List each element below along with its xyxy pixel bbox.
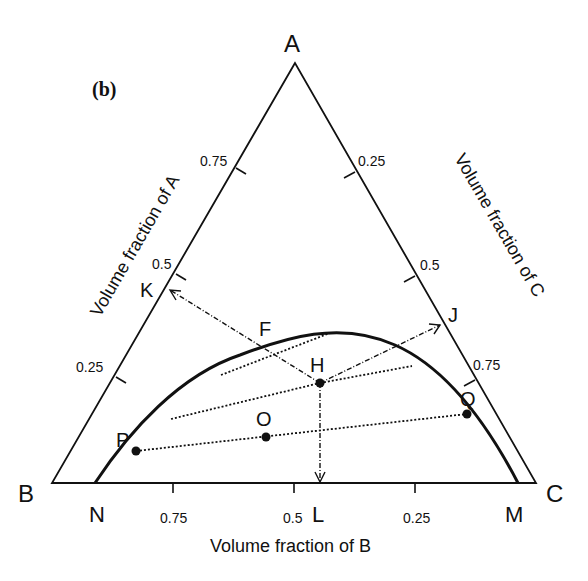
point-o-label: O xyxy=(256,408,272,430)
point-n-label: N xyxy=(89,502,105,527)
ternary-diagram: (b) A B C 0.75 0.5 0.25 Volume fraction … xyxy=(0,0,588,581)
a-tick-label-025: 0.25 xyxy=(76,359,103,375)
point-l-label: L xyxy=(312,502,324,527)
a-tick-label-050: 0.5 xyxy=(152,256,172,272)
point-f-label: F xyxy=(259,318,271,340)
c-tick-050 xyxy=(404,276,415,282)
c-tick-label-050: 0.5 xyxy=(420,257,440,273)
c-tick-025 xyxy=(344,172,355,178)
c-tick-075 xyxy=(464,380,475,386)
c-tick-label-025: 0.25 xyxy=(358,153,385,169)
b-axis-title: Volume fraction of B xyxy=(210,536,371,556)
point-q-label: Q xyxy=(460,388,476,410)
a-tick-075 xyxy=(236,168,246,174)
vertex-b-label: B xyxy=(18,480,34,507)
point-p-label: P xyxy=(116,429,129,451)
a-tick-025 xyxy=(116,377,126,383)
a-tick-050 xyxy=(176,274,186,280)
point-q-marker xyxy=(463,410,472,419)
point-k-label: K xyxy=(140,279,154,301)
arrowhead-k-icon xyxy=(170,290,181,300)
b-tick-label-075: 0.75 xyxy=(160,510,187,526)
a-tick-label-075: 0.75 xyxy=(200,153,227,169)
tie-line-lower xyxy=(171,383,320,419)
point-o-marker xyxy=(262,433,271,442)
tie-line-p-q xyxy=(136,414,467,451)
b-tick-label-050: 0.5 xyxy=(283,510,303,526)
point-h-label: H xyxy=(310,354,324,376)
c-tick-label-075: 0.75 xyxy=(473,357,500,373)
vertex-c-label: C xyxy=(546,480,563,507)
binodal-curve xyxy=(95,333,518,483)
b-tick-label-025: 0.25 xyxy=(403,510,430,526)
point-m-label: M xyxy=(505,502,523,527)
c-axis-title: Volume fraction of C xyxy=(451,150,549,300)
tie-line-right xyxy=(320,366,412,383)
vertex-a-label: A xyxy=(284,30,300,57)
a-axis-title: Volume fraction of A xyxy=(86,171,183,320)
point-p-marker xyxy=(132,447,141,456)
point-j-label: J xyxy=(448,304,458,326)
point-h-marker xyxy=(316,379,325,388)
panel-label: (b) xyxy=(92,78,116,101)
